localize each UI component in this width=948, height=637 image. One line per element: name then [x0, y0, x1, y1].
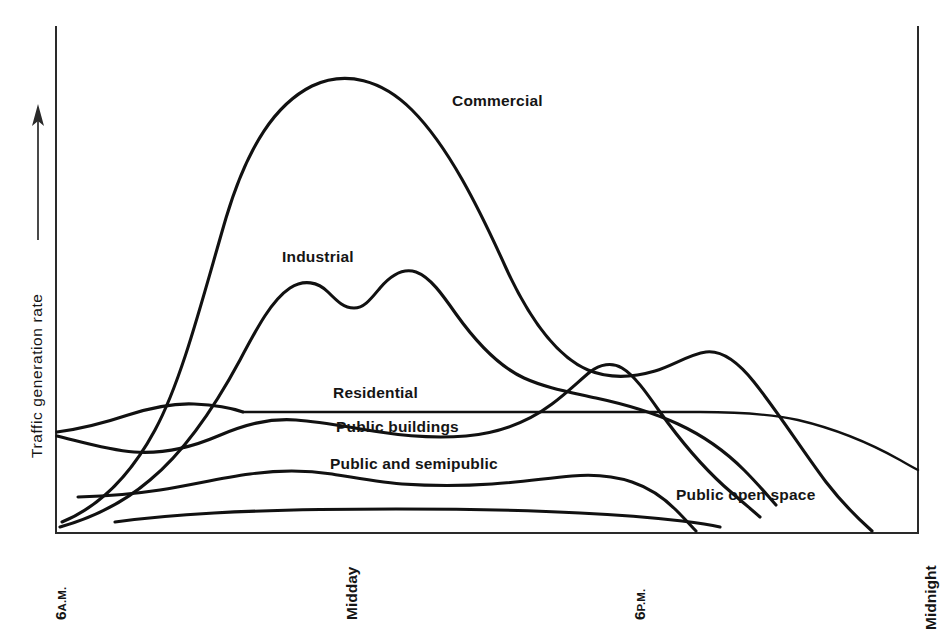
curve-public-and-semipublic — [78, 471, 696, 531]
x-tick-6am-suffix: A.M. — [56, 587, 68, 612]
series-label-public-buildings: Public buildings — [336, 418, 459, 436]
series-label-industrial: Industrial — [282, 248, 354, 266]
x-tick-6am-number: 6 — [52, 611, 69, 620]
x-tick-midday-number: Midday — [343, 567, 360, 620]
series-label-commercial: Commercial — [452, 92, 543, 110]
curve-residential — [57, 404, 243, 432]
x-tick-label-6am: 6A.M. — [52, 587, 70, 620]
y-axis-arrow-icon — [32, 104, 44, 240]
series-label-public-and-semipublic: Public and semipublic — [330, 455, 498, 473]
x-tick-label-midnight: Midnight — [922, 565, 940, 630]
x-tick-label-midday: Midday — [343, 567, 361, 620]
traffic-generation-rate-chart: Commercial Industrial Residential Public… — [0, 0, 948, 637]
x-tick-6pm-number: 6 — [631, 611, 648, 620]
x-tick-midnight-number: Midnight — [922, 565, 939, 630]
x-tick-6pm-suffix: P.M. — [635, 589, 647, 612]
x-tick-label-6pm: 6P.M. — [631, 589, 649, 620]
y-axis-title: Traffic generation rate — [28, 293, 46, 458]
series-label-public-open-space: Public open space — [676, 486, 816, 504]
series-label-residential: Residential — [333, 384, 418, 402]
curve-public-open-space — [115, 509, 720, 527]
